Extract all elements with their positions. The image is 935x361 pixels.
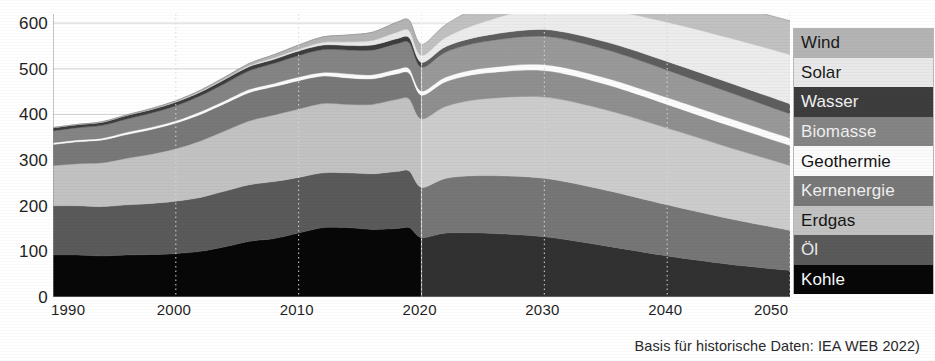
x-axis-tick-label: 1990 bbox=[51, 302, 85, 317]
x-axis-tick-label: 2000 bbox=[157, 302, 191, 317]
legend-item-geothermie[interactable]: Geothermie bbox=[794, 146, 933, 176]
plot-area bbox=[53, 14, 790, 297]
y-axis-tick-label: 100 bbox=[4, 243, 48, 260]
legend-item-label: Biomasse bbox=[801, 123, 876, 140]
legend-item-erdgas[interactable]: Erdgas bbox=[794, 206, 933, 236]
x-axis-tick-label: 2030 bbox=[525, 302, 559, 317]
y-axis-tick-label: 600 bbox=[4, 15, 48, 32]
y-axis-tick-label: 0 bbox=[4, 289, 48, 306]
source-caption: Basis für historische Daten: IEA WEB 202… bbox=[0, 338, 920, 354]
y-axis-tick-label: 300 bbox=[4, 152, 48, 169]
legend-item-label: Wind bbox=[801, 34, 840, 51]
y-axis: 0100200300400500600 bbox=[0, 0, 48, 361]
y-axis-tick-label: 400 bbox=[4, 106, 48, 123]
x-axis-tick-label: 2050 bbox=[754, 302, 788, 317]
legend-item-label: Kohle bbox=[801, 271, 845, 288]
legend-item-label: Erdgas bbox=[801, 212, 855, 229]
legend-item-kernenergie[interactable]: Kernenergie bbox=[794, 176, 933, 206]
energy-mix-stacked-area-chart: 0100200300400500600 WindSolarWasserBioma… bbox=[0, 0, 935, 361]
x-axis-tick-label: 2040 bbox=[648, 302, 682, 317]
legend-item--l[interactable]: Öl bbox=[794, 235, 933, 265]
x-axis-tick-label: 2020 bbox=[403, 302, 437, 317]
y-axis-tick-label: 500 bbox=[4, 61, 48, 78]
plot-svg bbox=[53, 14, 790, 297]
legend-item-label: Solar bbox=[801, 64, 841, 81]
legend-item-wind[interactable]: Wind bbox=[794, 28, 933, 58]
legend-item-wasser[interactable]: Wasser bbox=[794, 87, 933, 117]
legend-item-label: Kernenergie bbox=[801, 182, 895, 199]
legend-item-biomasse[interactable]: Biomasse bbox=[794, 117, 933, 147]
x-axis-tick-label: 2010 bbox=[280, 302, 314, 317]
legend: WindSolarWasserBiomasseGeothermieKernene… bbox=[793, 28, 934, 294]
legend-item-label: Öl bbox=[801, 241, 818, 258]
legend-item-kohle[interactable]: Kohle bbox=[794, 265, 933, 295]
legend-item-solar[interactable]: Solar bbox=[794, 58, 933, 88]
legend-item-label: Geothermie bbox=[801, 153, 891, 170]
y-axis-tick-label: 200 bbox=[4, 198, 48, 215]
legend-item-label: Wasser bbox=[801, 93, 859, 110]
